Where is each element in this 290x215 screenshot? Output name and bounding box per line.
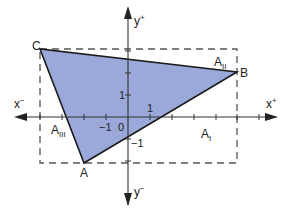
tick-label-y-neg-1: −1 [131,137,144,149]
tick-label-x-neg-1: −1 [99,121,112,133]
x-axis-pos-arrow-icon [265,113,278,121]
tick-label-y-pos-1: 1 [119,89,125,101]
point-label-c: C [32,39,41,53]
area-label-a1: AI [201,127,211,143]
x-pos-label: x+ [266,96,277,111]
point-label-b: B [240,66,248,80]
y-neg-label: y− [134,184,145,199]
y-pos-label: y+ [134,13,145,28]
x-neg-label: x− [14,96,25,111]
origin-label: 0 [118,121,124,133]
area-label-a3: AIII [51,123,66,139]
coordinate-diagram: x− x+ y+ y− 1 −1 0 1 −1 C B A AII AIII A… [0,0,290,215]
tick-label-x-pos-1: 1 [147,102,153,114]
x-axis-neg-arrow-icon [14,113,27,121]
area-label-a2: AII [214,55,226,71]
y-axis-pos-arrow-icon [124,6,132,19]
y-axis-neg-arrow-icon [124,193,132,206]
point-label-a: A [80,166,88,180]
